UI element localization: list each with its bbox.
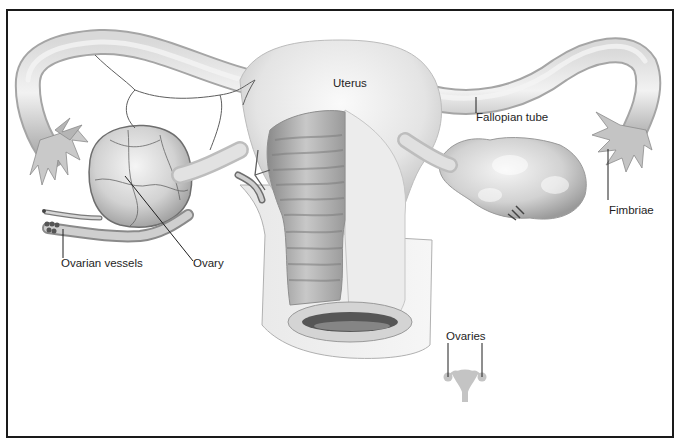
label-ovaries: Ovaries [446, 331, 486, 343]
reproductive-anatomy-illustration [0, 0, 679, 444]
label-uterus: Uterus [333, 78, 367, 90]
label-fallopian-tube: Fallopian tube [476, 112, 548, 124]
label-fimbriae: Fimbriae [609, 205, 654, 217]
ovaries-inset-icon [444, 370, 487, 403]
right-ovary [439, 138, 586, 220]
label-ovary: Ovary [193, 258, 224, 270]
label-ovarian-vessels: Ovarian vessels [61, 258, 143, 270]
